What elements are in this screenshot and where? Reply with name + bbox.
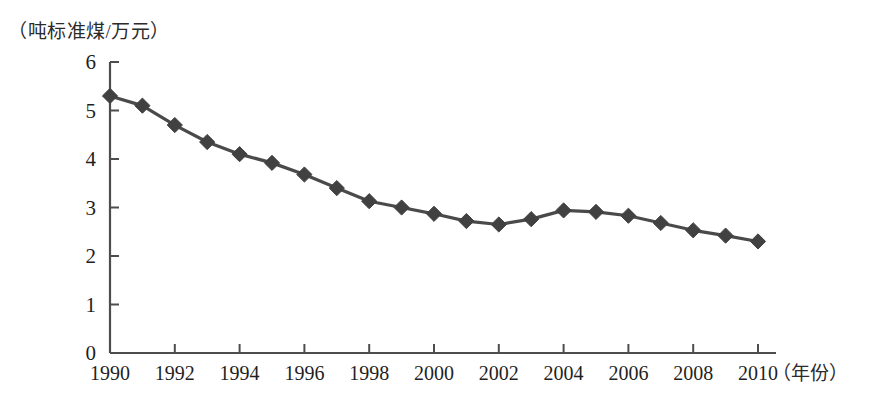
x-tick-label: 2006 bbox=[608, 362, 648, 384]
data-point-marker bbox=[588, 204, 603, 219]
y-tick-label: 1 bbox=[86, 293, 97, 317]
data-point-marker bbox=[297, 167, 312, 182]
x-tick-label: 1994 bbox=[220, 362, 260, 384]
y-tick-label: 2 bbox=[86, 244, 97, 268]
data-point-marker bbox=[200, 134, 215, 149]
data-point-marker bbox=[750, 234, 765, 249]
data-point-marker bbox=[459, 213, 474, 228]
x-tick-label: 1992 bbox=[155, 362, 195, 384]
data-point-marker bbox=[718, 228, 733, 243]
y-tick-label: 3 bbox=[86, 196, 97, 220]
x-tick-label: 1990 bbox=[90, 362, 130, 384]
y-tick-label: 6 bbox=[86, 50, 97, 74]
x-tick-label: 1996 bbox=[284, 362, 324, 384]
y-tick-label: 5 bbox=[86, 99, 97, 123]
data-point-marker bbox=[556, 203, 571, 218]
data-point-marker bbox=[653, 215, 668, 230]
x-axis: 1990199219941996199820002002200420062008… bbox=[90, 344, 778, 384]
y-tick-label: 4 bbox=[86, 147, 97, 171]
x-tick-label: 1998 bbox=[349, 362, 389, 384]
line-chart: （吨标准煤/万元） （年份） 0123456 19901992199419961… bbox=[0, 0, 886, 408]
x-tick-label: 2010 bbox=[738, 362, 778, 384]
data-point-marker bbox=[167, 117, 182, 132]
x-tick-label: 2000 bbox=[414, 362, 454, 384]
data-point-marker bbox=[426, 206, 441, 221]
data-point-marker bbox=[264, 155, 279, 170]
data-point-marker bbox=[394, 200, 409, 215]
data-point-marker bbox=[621, 208, 636, 223]
data-point-marker bbox=[362, 194, 377, 209]
data-point-marker bbox=[491, 217, 506, 232]
data-series bbox=[102, 88, 765, 249]
x-tick-label: 2004 bbox=[544, 362, 584, 384]
data-point-marker bbox=[232, 147, 247, 162]
data-point-marker bbox=[102, 88, 117, 103]
x-tick-label: 2008 bbox=[673, 362, 713, 384]
data-point-marker bbox=[329, 181, 344, 196]
x-tick-label: 2002 bbox=[479, 362, 519, 384]
data-point-marker bbox=[524, 212, 539, 227]
plot-area: 0123456 19901992199419961998200020022004… bbox=[0, 0, 886, 408]
data-point-marker bbox=[135, 98, 150, 113]
data-point-marker bbox=[686, 223, 701, 238]
